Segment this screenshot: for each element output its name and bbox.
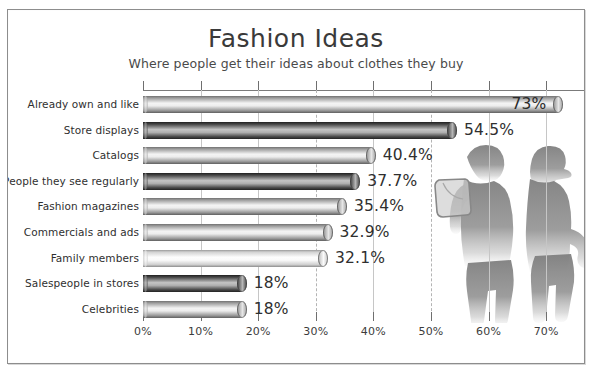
bar-value-label: 18%	[254, 301, 289, 318]
bar-end-cap	[318, 250, 328, 267]
x-tick-top	[316, 81, 317, 90]
bar-row[interactable]: 40.4%	[143, 147, 584, 164]
x-tick-top	[201, 81, 202, 90]
bar-value-label: 18%	[254, 275, 289, 292]
bar-value-label: 37.7%	[367, 173, 417, 190]
bar-row[interactable]: 54.5%	[143, 122, 584, 139]
category-label: Commercials and ads	[7, 224, 139, 241]
bar[interactable]	[143, 122, 457, 139]
bar-value-label: 40.4%	[383, 147, 433, 164]
bar-end-cap	[553, 96, 563, 113]
bar[interactable]	[143, 224, 333, 241]
axis-top-rule	[143, 90, 584, 91]
category-label: Family members	[7, 250, 139, 267]
bar-value-label: 54.5%	[464, 122, 514, 139]
bar-end-cap	[366, 147, 376, 164]
scanned-page: Fashion Ideas Where people get their ide…	[0, 0, 592, 374]
x-tick-top	[373, 81, 374, 90]
bar-value-label: 73%	[511, 96, 546, 113]
bar[interactable]	[143, 301, 247, 318]
x-tick-top	[546, 81, 547, 90]
bar[interactable]	[143, 147, 376, 164]
bar-row[interactable]: 18%	[143, 301, 584, 318]
category-label: Fashion magazines	[7, 198, 139, 215]
x-tick-label: 0%	[134, 325, 152, 338]
bar-row[interactable]: 32.9%	[143, 224, 584, 241]
bar-body	[143, 122, 452, 139]
x-tick-label: 50%	[418, 325, 443, 338]
x-tick-label: 30%	[303, 325, 328, 338]
bar-start-cap	[143, 96, 148, 113]
bar-body	[143, 173, 355, 190]
bar-row[interactable]: 37.7%	[143, 173, 584, 190]
category-label: Store displays	[7, 122, 139, 139]
bar-body	[143, 147, 371, 164]
bar-value-label: 32.1%	[335, 250, 385, 267]
bar-body	[143, 198, 342, 215]
bar[interactable]	[143, 250, 328, 267]
bar-start-cap	[143, 301, 148, 318]
bar-row[interactable]: 32.1%	[143, 250, 584, 267]
bar[interactable]	[143, 198, 347, 215]
category-label: Already own and like	[7, 96, 139, 113]
bar-start-cap	[143, 122, 148, 139]
bar-end-cap	[323, 224, 333, 241]
category-label: Catalogs	[7, 147, 139, 164]
bar-start-cap	[143, 224, 148, 241]
bar[interactable]	[143, 173, 360, 190]
chart-frame: Fashion Ideas Where people get their ide…	[7, 9, 585, 364]
category-label: Celebrities	[7, 301, 139, 318]
bar[interactable]	[143, 96, 563, 113]
x-tick-top	[431, 81, 432, 90]
bar-value-label: 35.4%	[354, 198, 404, 215]
bar-row[interactable]: 73%	[143, 96, 584, 113]
x-tick-label: 20%	[246, 325, 271, 338]
bar-end-cap	[337, 198, 347, 215]
x-tick-top	[489, 81, 490, 90]
x-tick-top	[258, 81, 259, 90]
bar-end-cap	[237, 275, 247, 292]
chart-subtitle: Where people get their ideas about cloth…	[8, 56, 584, 71]
bar-body	[143, 275, 242, 292]
bar-row[interactable]: 35.4%	[143, 198, 584, 215]
category-axis-labels: Already own and likeStore displaysCatalo…	[7, 81, 139, 321]
category-label: Salespeople in stores	[7, 275, 139, 292]
category-label: People they see regularly	[7, 173, 139, 190]
x-tick-top	[143, 81, 144, 90]
bar-body	[143, 301, 242, 318]
plot-area: 73%54.5%40.4%37.7%35.4%32.9%32.1%18%18% …	[143, 81, 584, 321]
bar-body	[143, 96, 558, 113]
bar-end-cap	[350, 173, 360, 190]
bar-start-cap	[143, 173, 148, 190]
bar-end-cap	[237, 301, 247, 318]
chart-title: Fashion Ideas	[8, 24, 584, 53]
x-tick-label: 10%	[188, 325, 213, 338]
bar-row[interactable]: 18%	[143, 275, 584, 292]
x-tick-label: 60%	[476, 325, 501, 338]
bar-value-label: 32.9%	[340, 224, 390, 241]
x-tick-label: 70%	[534, 325, 559, 338]
x-tick-label: 40%	[361, 325, 386, 338]
bar-start-cap	[143, 250, 148, 267]
bar[interactable]	[143, 275, 247, 292]
bar-body	[143, 250, 323, 267]
bar-body	[143, 224, 328, 241]
bar-end-cap	[447, 122, 457, 139]
